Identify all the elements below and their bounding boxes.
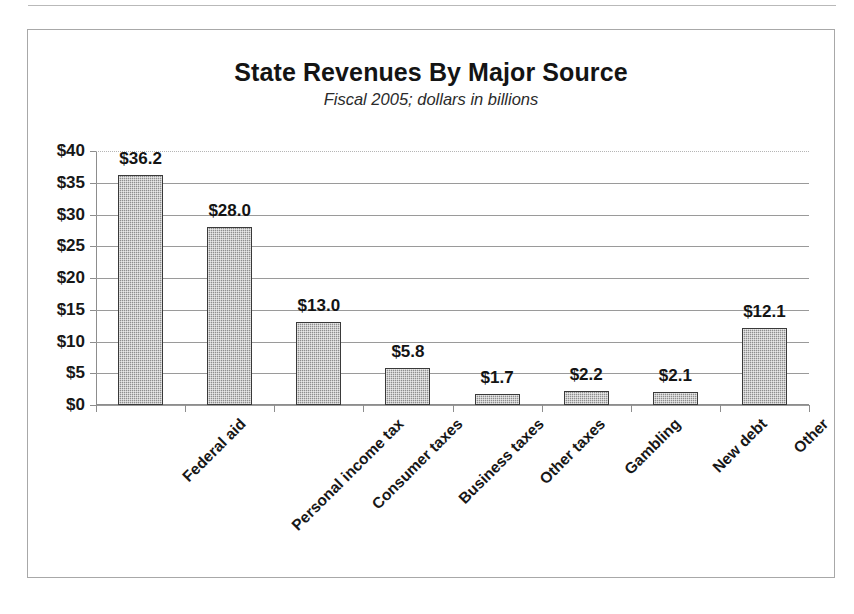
y-axis-tick-label: $5 — [66, 363, 85, 383]
y-axis-tick — [90, 246, 96, 247]
y-axis-tick — [90, 342, 96, 343]
bar-value-label: $1.7 — [481, 368, 514, 388]
bar — [653, 392, 698, 405]
bar — [564, 391, 609, 405]
x-axis-tick — [185, 405, 186, 412]
y-axis-tick-label: $30 — [57, 205, 85, 225]
x-axis-category-label: Business taxes — [455, 415, 548, 508]
x-axis-tick — [274, 405, 275, 412]
y-axis-tick-label: $25 — [57, 236, 85, 256]
y-axis-tick — [90, 278, 96, 279]
gridline — [96, 151, 809, 152]
y-axis-tick-label: $35 — [57, 173, 85, 193]
gridline — [96, 246, 809, 247]
x-axis-category-label: Other taxes — [536, 415, 609, 488]
x-axis-tick — [542, 405, 543, 412]
y-axis-tick-label: $0 — [66, 395, 85, 415]
x-axis-category-label: New debt — [709, 415, 770, 476]
bar-value-label: $13.0 — [298, 296, 341, 316]
bar-value-label: $12.1 — [743, 302, 786, 322]
y-axis-tick — [90, 373, 96, 374]
gridline — [96, 310, 809, 311]
x-axis-category-label: Gambling — [621, 415, 684, 478]
x-axis-tick — [809, 405, 810, 412]
x-axis-tick — [720, 405, 721, 412]
bar-value-label: $28.0 — [208, 201, 251, 221]
chart-figure-frame: State Revenues By Major Source Fiscal 20… — [27, 29, 835, 578]
y-axis-tick-label: $40 — [57, 141, 85, 161]
bar-value-label: $2.2 — [570, 365, 603, 385]
y-axis-tick-label: $15 — [57, 300, 85, 320]
x-axis-tick — [96, 405, 97, 412]
bar-value-label: $5.8 — [391, 342, 424, 362]
x-axis-tick — [631, 405, 632, 412]
bar — [207, 227, 252, 405]
bar — [742, 328, 787, 405]
y-axis-tick — [90, 183, 96, 184]
x-axis-tick — [363, 405, 364, 412]
y-axis-tick-label: $10 — [57, 332, 85, 352]
chart-subtitle: Fiscal 2005; dollars in billions — [28, 90, 834, 109]
x-axis-tick — [453, 405, 454, 412]
y-axis-tick-label: $20 — [57, 268, 85, 288]
gridline — [96, 183, 809, 184]
x-axis-category-label: Personal income tax — [288, 415, 407, 534]
chart-title: State Revenues By Major Source — [28, 58, 834, 87]
bar — [475, 394, 520, 405]
bar-value-label: $36.2 — [119, 149, 162, 169]
gridline — [96, 373, 809, 374]
y-axis-tick — [90, 310, 96, 311]
gridline — [96, 278, 809, 279]
gridline — [96, 215, 809, 216]
x-axis-category-label: Other — [791, 415, 833, 457]
x-axis-category-label: Federal aid — [179, 415, 250, 486]
bar — [385, 368, 430, 405]
bar — [296, 322, 341, 405]
page-top-rule — [28, 5, 836, 6]
plot-area: $40$35$30$25$20$15$10$5$0 $36.2$28.0$13.… — [96, 151, 809, 405]
bar-value-label: $2.1 — [659, 366, 692, 386]
y-axis-tick — [90, 151, 96, 152]
y-axis-tick — [90, 215, 96, 216]
bar — [118, 175, 163, 405]
gridline — [96, 342, 809, 343]
